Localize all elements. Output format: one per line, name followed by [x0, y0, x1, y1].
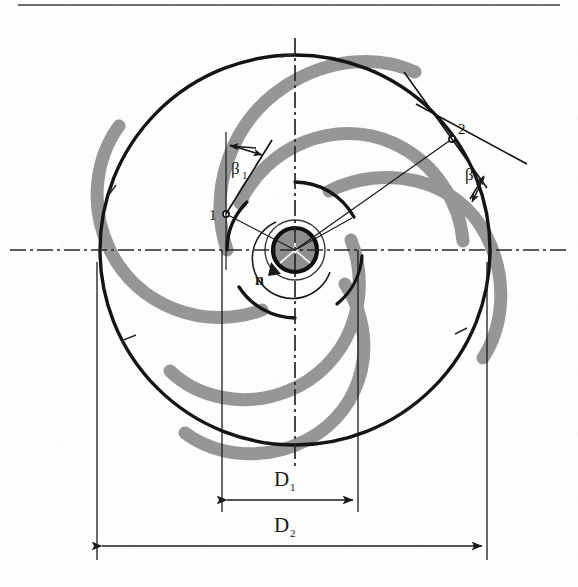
tick-right [455, 328, 467, 334]
radius-to-point2 [295, 139, 452, 250]
beta1-subscript: 1 [242, 169, 248, 181]
dimension-d2: D 2 [102, 513, 482, 546]
d1-subscript: 1 [290, 481, 296, 493]
beta2-subscript: 2 [476, 175, 482, 187]
tick-lower-left [121, 335, 136, 341]
d1-label: D [274, 467, 289, 491]
figure-canvas: n 1 β 1 2 β 2 [0, 0, 578, 587]
d2-label: D [274, 513, 289, 537]
d2-subscript: 2 [290, 527, 296, 539]
rotation-label: n [255, 271, 264, 288]
beta2-label: β [465, 165, 474, 184]
impeller-diagram: n 1 β 1 2 β 2 [0, 0, 578, 587]
blade-3 [185, 284, 364, 454]
blade-4 [97, 126, 262, 317]
blade-tangent-line-2 [416, 104, 527, 164]
beta1-label: β [231, 159, 240, 178]
dimension-d1: D 1 [227, 467, 353, 500]
blade-1 [220, 61, 415, 250]
point-1-label: 1 [209, 207, 217, 223]
circle-tangent-line-2 [404, 72, 487, 188]
